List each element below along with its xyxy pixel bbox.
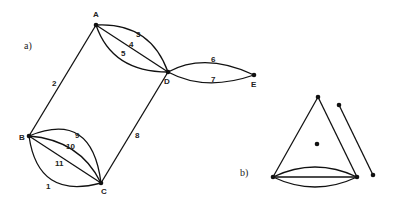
b-vertex-isolated [315, 142, 320, 147]
edge-10-label: 10 [66, 142, 75, 151]
edge-11-label: 11 [55, 159, 64, 168]
b-edge-apex-right [318, 97, 357, 177]
edge-2-label: 2 [52, 79, 57, 88]
b-vertex-line-top [337, 103, 342, 108]
b-edge-separate [339, 105, 373, 175]
vertex-d-label: D [164, 77, 170, 86]
part-a-label: a) [24, 40, 32, 52]
diagram-canvas: a) A D E B C 1 2 3 4 5 6 7 8 9 10 11 b) [0, 0, 397, 208]
edge-8-label: 8 [135, 131, 140, 140]
vertex-a [94, 23, 99, 28]
vertex-d [166, 70, 171, 75]
edge-5-label: 5 [121, 49, 126, 58]
vertex-c-label: C [101, 187, 107, 196]
edge-8 [101, 72, 168, 183]
edge-11 [29, 136, 101, 183]
edge-6 [168, 63, 254, 75]
b-vertex-apex [316, 95, 321, 100]
edge-4-label: 4 [129, 40, 134, 49]
b-vertex-line-bottom [371, 173, 376, 178]
vertex-e-label: E [251, 80, 257, 89]
b-vertex-left [271, 175, 276, 180]
edge-1-label: 1 [46, 182, 51, 191]
vertex-e [252, 73, 257, 78]
b-edge-apex-left [273, 97, 318, 177]
b-edge-base-upper [273, 167, 357, 177]
edge-3-label: 3 [136, 30, 141, 39]
edge-2 [29, 25, 96, 136]
edge-6-label: 6 [211, 55, 216, 64]
vertex-b [27, 134, 32, 139]
b-edge-base-lower [273, 177, 357, 187]
edge-9-label: 9 [75, 131, 80, 140]
vertex-a-label: A [93, 10, 99, 19]
vertex-b-label: B [19, 133, 25, 142]
part-b-label: b) [240, 167, 248, 179]
edge-7-label: 7 [211, 75, 216, 84]
vertex-c [99, 181, 104, 186]
b-vertex-right [355, 175, 360, 180]
